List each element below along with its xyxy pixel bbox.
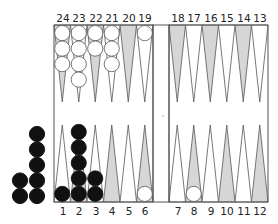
white-checker [55,41,70,56]
black-borne-off-checker [12,188,27,203]
black-borne-off-checker [29,126,44,141]
white-checker [55,57,70,72]
point-label-11: 11 [236,205,252,217]
point-label-8: 8 [186,205,202,217]
backgammon-board-diagram: 24 23 22 21 20 19 18 17 16 15 14 13 1 2 … [0,0,278,224]
white-checker [71,57,86,72]
black-borne-off-checker [29,157,44,172]
point-label-3: 3 [88,205,104,217]
point-11 [235,125,252,202]
point-label-10: 10 [219,205,235,217]
black-checker [71,171,86,186]
white-checker [88,41,103,56]
white-checker [137,186,152,201]
point-7 [169,125,186,202]
point-12 [252,125,269,202]
white-checker [137,25,152,40]
white-checker [71,25,86,40]
point-18 [169,25,186,102]
point-label-24: 24 [55,12,71,24]
white-checker [104,25,119,40]
point-20 [120,25,137,102]
point-label-16: 16 [203,12,219,24]
white-checker [104,57,119,72]
black-borne-off-checker [12,173,27,188]
bar [153,25,169,202]
point-13 [252,25,269,102]
point-label-1: 1 [55,205,71,217]
point-label-14: 14 [236,12,252,24]
white-checker [71,41,86,56]
black-checker [88,186,103,201]
point-label-23: 23 [71,12,87,24]
point-label-5: 5 [121,205,137,217]
point-5 [120,125,137,202]
white-checker [71,72,86,87]
point-17 [186,25,203,102]
point-label-22: 22 [88,12,104,24]
point-15 [219,25,236,102]
white-checker [104,41,119,56]
right-board-frame [169,25,268,202]
black-checker [71,155,86,170]
point-label-7: 7 [170,205,186,217]
bar-dot [162,115,163,116]
point-label-13: 13 [252,12,268,24]
point-label-9: 9 [203,205,219,217]
black-checker [71,124,86,139]
board [0,0,278,224]
point-label-17: 17 [186,12,202,24]
black-borne-off-checker [29,142,44,157]
point-label-4: 4 [104,205,120,217]
black-checker [55,186,70,201]
black-checker [71,140,86,155]
point-label-15: 15 [219,12,235,24]
point-label-6: 6 [137,205,153,217]
white-checker [88,25,103,40]
point-9 [202,125,219,202]
point-16 [202,25,219,102]
point-label-19: 19 [137,12,153,24]
point-10 [219,125,236,202]
point-label-21: 21 [104,12,120,24]
point-label-12: 12 [252,205,268,217]
black-checker [88,171,103,186]
black-checker [71,186,86,201]
black-borne-off-checker [29,173,44,188]
point-label-18: 18 [170,12,186,24]
point-14 [235,25,252,102]
black-borne-off-checker [29,188,44,203]
white-checker [55,25,70,40]
point-4 [104,125,121,202]
white-checker [186,186,201,201]
point-label-20: 20 [121,12,137,24]
point-label-2: 2 [71,205,87,217]
